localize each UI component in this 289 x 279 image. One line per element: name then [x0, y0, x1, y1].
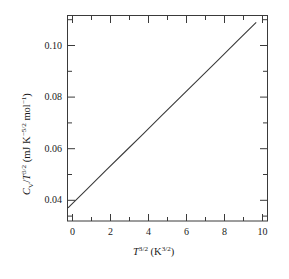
data-series-line	[68, 22, 256, 207]
y-axis-title-variable2: T	[21, 174, 32, 180]
figure-chart-cv-over-t32: 0.04 0.06 0.08 0.10 0 2 4 6 8 10 T3/2 (K…	[0, 0, 289, 279]
y-axis-title-unit-exponent2: −1	[20, 97, 28, 105]
xtick-label-5: 10	[253, 227, 273, 237]
y-axis-title-unit-open: (mJ K	[21, 136, 32, 165]
x-axis-top-minor-ticks	[92, 16, 244, 20]
ytick-label-2: 0.08	[28, 92, 62, 102]
ytick-label-0: 0.04	[28, 195, 62, 205]
x-axis-minor-ticks	[92, 217, 244, 221]
y-axis-title-unit-close: )	[21, 93, 32, 97]
y-axis-title-variable2-exponent: 3/2	[20, 165, 28, 174]
y-axis-title-variable: C	[21, 188, 32, 195]
x-axis-title-unit-close: )	[171, 246, 175, 257]
y-axis-title-variable-subscript: V	[27, 183, 35, 188]
y-axis-title-unit-mid: mol	[21, 104, 32, 123]
x-axis-title-variable-exponent: 3/2	[139, 245, 148, 253]
ytick-label-1: 0.06	[28, 144, 62, 154]
plot-frame	[68, 16, 268, 222]
y-axis-title-slash: /	[21, 180, 32, 183]
x-axis-title-unit-exponent: 3/2	[162, 245, 171, 253]
xtick-label-3: 6	[177, 227, 197, 237]
x-axis-title: T3/2 (K3/2)	[133, 247, 174, 258]
xtick-label-0: 0	[63, 227, 83, 237]
xtick-label-1: 2	[101, 227, 121, 237]
xtick-label-4: 8	[215, 227, 235, 237]
y-axis-right-minor-ticks	[263, 20, 267, 216]
y-axis-title: CV/T3/2 (mJ K−5/2 mol−1)	[22, 93, 33, 195]
xtick-label-2: 4	[139, 227, 159, 237]
y-axis-title-unit-exponent: −5/2	[20, 123, 28, 136]
y-axis-minor-ticks	[68, 20, 72, 216]
x-axis-title-unit-open: (K	[148, 246, 162, 257]
ytick-label-3: 0.10	[28, 41, 62, 51]
